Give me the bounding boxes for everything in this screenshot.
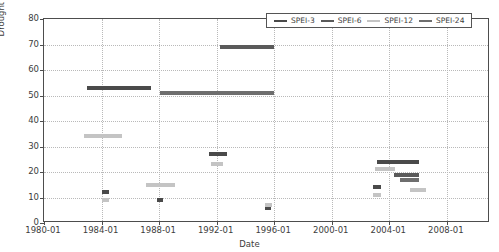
y-tick-mark — [40, 45, 44, 46]
data-segment-spei-12 — [84, 134, 122, 138]
series-layer — [44, 19, 488, 221]
data-segment-spei-12 — [146, 183, 175, 187]
legend-entry-spei-12[interactable]: SPEI-12 — [367, 16, 412, 25]
x-tick-label: 2008-01 — [416, 226, 476, 235]
spei-drought-severity-chart: Drought severity (months) 01020304050607… — [0, 0, 499, 252]
legend-label: SPEI-12 — [384, 16, 412, 25]
y-tick-label: 70 — [0, 40, 39, 49]
legend-line-icon — [321, 20, 334, 22]
data-segment-spei-24 — [400, 178, 419, 182]
data-segment-spei-12 — [410, 188, 427, 192]
y-tick-mark — [40, 198, 44, 199]
data-segment-spei-3 — [157, 198, 163, 202]
legend-label: SPEI-6 — [338, 16, 362, 25]
y-tick-mark — [40, 121, 44, 122]
data-segment-spei-3 — [373, 185, 381, 189]
y-tick-label: 40 — [0, 116, 39, 125]
x-tick-label: 2000-01 — [301, 226, 361, 235]
legend-entry-spei-24[interactable]: SPEI-24 — [419, 16, 464, 25]
data-segment-spei-12 — [375, 167, 395, 171]
data-segment-spei-3 — [209, 152, 227, 156]
data-segment-spei-3 — [102, 190, 109, 194]
x-tick-label: 1988-01 — [128, 226, 188, 235]
y-tick-label: 10 — [0, 193, 39, 202]
data-segment-spei-12 — [102, 198, 109, 202]
y-tick-mark — [40, 70, 44, 71]
data-segment-spei-24 — [160, 91, 274, 95]
data-segment-spei-3 — [377, 160, 419, 164]
data-segment-spei-12 — [265, 203, 272, 207]
y-tick-mark — [40, 19, 44, 20]
y-tick-label: 50 — [0, 91, 39, 100]
x-tick-label: 1996-01 — [243, 226, 303, 235]
data-segment-spei-3 — [87, 86, 151, 90]
x-axis-label: Date — [0, 239, 499, 249]
x-tick-label: 1980-01 — [13, 226, 73, 235]
legend-line-icon — [419, 20, 432, 22]
plot-area — [43, 18, 489, 222]
data-segment-spei-12 — [373, 193, 381, 197]
y-tick-label: 60 — [0, 65, 39, 74]
x-tick-label: 2004-01 — [358, 226, 418, 235]
y-tick-mark — [40, 147, 44, 148]
legend-entry-spei-6[interactable]: SPEI-6 — [321, 16, 362, 25]
legend: SPEI-3SPEI-6SPEI-12SPEI-24 — [266, 13, 472, 28]
y-tick-label: 80 — [0, 14, 39, 23]
x-tick-label: 1984-01 — [71, 226, 131, 235]
y-tick-mark — [40, 96, 44, 97]
legend-entry-spei-3[interactable]: SPEI-3 — [274, 16, 315, 25]
legend-label: SPEI-3 — [291, 16, 315, 25]
x-tick-label: 1992-01 — [186, 226, 246, 235]
y-tick-mark — [40, 172, 44, 173]
y-tick-label: 20 — [0, 167, 39, 176]
data-segment-spei-6 — [220, 45, 274, 49]
legend-line-icon — [367, 20, 380, 22]
y-tick-label: 30 — [0, 142, 39, 151]
data-segment-spei-6 — [394, 173, 419, 177]
legend-line-icon — [274, 20, 287, 22]
data-segment-spei-12 — [211, 162, 223, 166]
legend-label: SPEI-24 — [436, 16, 464, 25]
